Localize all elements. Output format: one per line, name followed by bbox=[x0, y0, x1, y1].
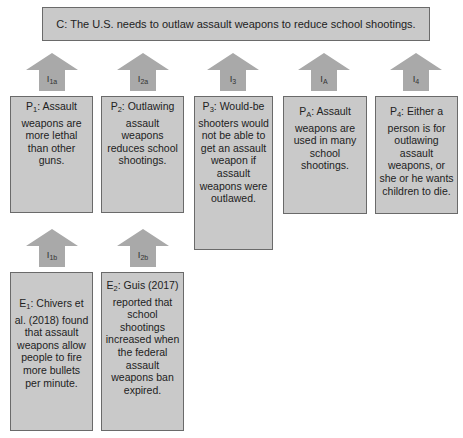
arrow-label: I4 bbox=[390, 73, 442, 85]
up-arrow-icon bbox=[26, 53, 78, 91]
arrow-label: IA bbox=[298, 73, 350, 85]
arrow-label: I1a bbox=[26, 73, 78, 85]
claim-text: C: The U.S. needs to outlaw assault weap… bbox=[56, 18, 415, 30]
inference-arrow-i1a: I1a bbox=[26, 53, 78, 91]
inference-arrow-i3: I3 bbox=[207, 53, 259, 91]
arrow-label: I3 bbox=[207, 73, 259, 85]
evidence-e2: E2: Guis (2017) reported that school sho… bbox=[101, 272, 184, 431]
up-arrow-icon bbox=[117, 53, 169, 91]
inference-arrow-ia: IA bbox=[298, 53, 350, 91]
premise-p1: P1: Assault weapons are more lethal than… bbox=[10, 96, 93, 213]
up-arrow-icon bbox=[117, 229, 169, 267]
evidence-e1: E1: Chivers et al. (2018) found that ass… bbox=[10, 272, 93, 431]
up-arrow-icon bbox=[298, 53, 350, 91]
inference-arrow-i2a: I2a bbox=[117, 53, 169, 91]
inference-arrow-i4: I4 bbox=[390, 53, 442, 91]
arrow-label: I2b bbox=[117, 249, 169, 261]
inference-arrow-i2b: I2b bbox=[117, 229, 169, 267]
up-arrow-icon bbox=[26, 229, 78, 267]
premise-p4: P4: Either a person is for outlawing ass… bbox=[375, 96, 458, 214]
claim-box: C: The U.S. needs to outlaw assault weap… bbox=[42, 7, 430, 41]
arrow-label: I2a bbox=[117, 73, 169, 85]
premise-p3: P3: Would-be shooters would not be able … bbox=[194, 96, 273, 250]
inference-arrow-i1b: I1b bbox=[26, 229, 78, 267]
premise-p2: P2: Outlawing assault weapons reduces sc… bbox=[101, 96, 184, 213]
up-arrow-icon bbox=[390, 53, 442, 91]
arrow-label: I1b bbox=[26, 249, 78, 261]
premise-pa: PA: Assault weapons are used in many sch… bbox=[283, 96, 367, 214]
up-arrow-icon bbox=[207, 53, 259, 91]
